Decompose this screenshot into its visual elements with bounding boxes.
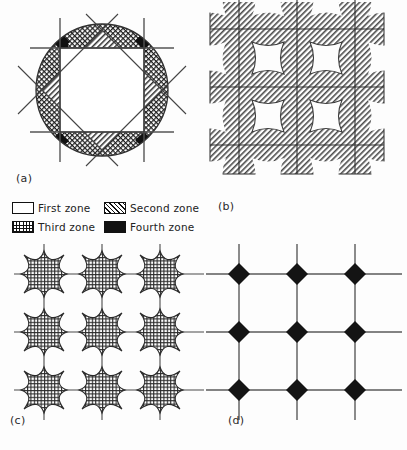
panel-b-second-zone-surface — [206, 2, 402, 192]
panel-c-label: (c) — [10, 414, 26, 427]
panel-d-label: (d) — [228, 414, 244, 427]
panel-a-first-zone-square — [60, 48, 144, 132]
fourth-zone-diamond — [286, 263, 308, 285]
panel-a-svg — [6, 2, 198, 192]
fourth-zone-diamond — [286, 379, 308, 401]
panel-c-third-zone-surface — [14, 244, 204, 420]
fourth-zone-diamond — [228, 263, 250, 285]
legend-label-third-zone: Third zone — [38, 221, 95, 233]
third-zone-star — [21, 309, 67, 355]
legend-entry-third-zone: Third zone — [12, 221, 104, 233]
panel-d-diamond-group — [228, 263, 366, 401]
third-zone-star — [79, 309, 125, 355]
figure-root: (a) — [0, 0, 407, 450]
third-zone-star — [21, 367, 67, 413]
third-zone-star — [137, 309, 183, 355]
panel-b-svg — [206, 2, 402, 192]
zone-swatch-black-icon — [104, 221, 126, 233]
zone-swatch-hatch-icon — [104, 202, 126, 214]
panel-d-fourth-zone-surface — [206, 244, 402, 420]
fourth-zone-diamond — [344, 263, 366, 285]
legend-label-first-zone: First zone — [38, 202, 91, 214]
legend-entry-fourth-zone: Fourth zone — [104, 221, 202, 233]
third-zone-star — [137, 367, 183, 413]
legend-entry-first-zone: First zone — [12, 202, 104, 214]
fourth-zone-diamond — [344, 379, 366, 401]
legend-label-fourth-zone: Fourth zone — [130, 221, 194, 233]
legend-entry-second-zone: Second zone — [104, 202, 202, 214]
panel-a-label: (a) — [16, 172, 32, 185]
zone-swatch-white-icon — [12, 202, 34, 214]
fourth-zone-diamond — [286, 321, 308, 343]
third-zone-star — [79, 251, 125, 297]
legend-label-second-zone: Second zone — [130, 202, 199, 214]
panel-d-svg — [206, 244, 402, 420]
panel-b-label: (b) — [218, 200, 234, 213]
third-zone-star — [137, 251, 183, 297]
fourth-zone-diamond — [344, 321, 366, 343]
zone-legend: First zone Second zone Third zone Fourth… — [12, 198, 202, 236]
zone-swatch-grid-icon — [12, 221, 34, 233]
third-zone-star — [79, 367, 125, 413]
fourth-zone-diamond — [228, 321, 250, 343]
panel-c-star-group — [21, 251, 183, 413]
panel-a-brillouin-zone-construction — [6, 2, 198, 192]
fourth-zone-diamond — [228, 379, 250, 401]
panel-c-svg — [14, 244, 204, 420]
third-zone-star — [21, 251, 67, 297]
